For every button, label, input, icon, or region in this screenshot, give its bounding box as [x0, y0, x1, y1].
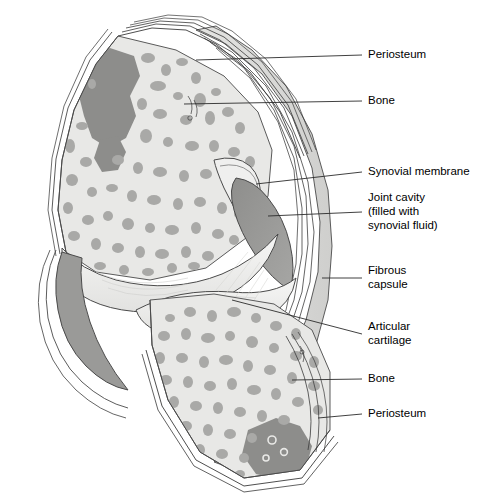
label-bone-bottom: Bone: [368, 372, 395, 384]
label-periosteum-top: Periosteum: [368, 48, 426, 60]
leader-synovial-membrane: [256, 172, 362, 184]
lower-bone: [150, 294, 330, 480]
label-joint-cavity-line3: synovial fluid): [368, 219, 438, 231]
upper-bone: [58, 36, 272, 280]
label-periosteum-bottom: Periosteum: [368, 407, 426, 419]
label-fibrous-capsule-line2: capsule: [368, 278, 408, 290]
label-articular-cartilage-line1: Articular: [368, 320, 410, 332]
leader-joint-cavity: [268, 212, 362, 216]
label-joint-cavity-line2: (filled with: [368, 205, 419, 217]
label-articular-cartilage-line2: cartilage: [368, 334, 411, 346]
leader-periosteum-top: [196, 55, 362, 60]
label-synovial-membrane: Synovial membrane: [368, 165, 470, 177]
label-fibrous-capsule-line1: Fibrous: [368, 264, 407, 276]
synovial-joint-diagram: Periosteum Bone Synovial membrane Joint …: [0, 0, 491, 501]
label-joint-cavity-line1: Joint cavity: [368, 191, 425, 203]
figure-canvas: Periosteum Bone Synovial membrane Joint …: [0, 0, 491, 501]
label-group: Periosteum Bone Synovial membrane Joint …: [368, 48, 470, 419]
label-bone-top: Bone: [368, 94, 395, 106]
